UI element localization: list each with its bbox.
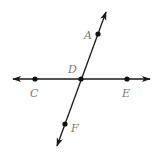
- geometry-diagram: A C D E F: [0, 0, 158, 157]
- point-a: [95, 31, 100, 36]
- label-d: D: [67, 63, 77, 76]
- point-e: [124, 76, 129, 81]
- label-c: C: [30, 87, 39, 100]
- point-f: [62, 121, 67, 126]
- label-f: F: [70, 122, 79, 135]
- point-d: [78, 76, 83, 81]
- label-a: A: [83, 29, 92, 42]
- point-c: [32, 76, 37, 81]
- label-e: E: [121, 87, 130, 100]
